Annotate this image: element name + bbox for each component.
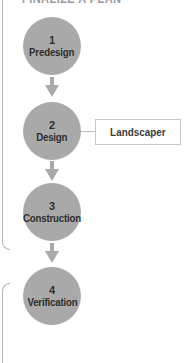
step-label: Construction — [23, 212, 81, 225]
arrow-down-icon — [45, 243, 59, 263]
step-design: 2 Design — [23, 102, 81, 160]
bracket-line-bottom — [2, 283, 10, 363]
step-label: Predesign — [29, 46, 74, 59]
arrow-down-icon — [45, 77, 59, 97]
step-verification: 4 Verification — [23, 267, 81, 325]
landscaper-label: Landscaper — [110, 126, 166, 138]
connector-line — [81, 131, 96, 132]
step-predesign: 1 Predesign — [23, 17, 81, 75]
landscaper-box: Landscaper — [95, 119, 181, 145]
arrow-down-icon — [45, 161, 59, 181]
step-label: Design — [36, 131, 67, 144]
bracket-line-top — [2, 0, 10, 250]
step-number: 1 — [49, 34, 55, 46]
step-construction: 3 Construction — [23, 183, 81, 241]
step-number: 4 — [49, 284, 55, 296]
step-label: Verification — [27, 296, 77, 309]
step-number: 3 — [49, 200, 55, 212]
step-number: 2 — [49, 119, 55, 131]
section-header: FINALIZE A PLAN — [22, 0, 121, 6]
